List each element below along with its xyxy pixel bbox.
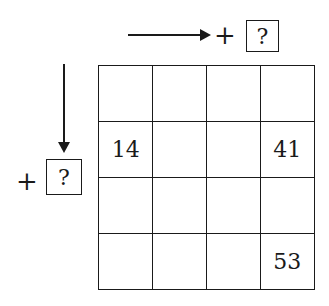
- grid-cell: [206, 66, 260, 122]
- vertical-unknown-value: ?: [58, 165, 70, 190]
- grid-cell: [153, 66, 207, 122]
- grid-cell: [99, 66, 153, 122]
- grid-cell: [260, 66, 314, 122]
- vertical-arrow-shaft: [63, 64, 65, 146]
- grid-cell: [153, 122, 207, 178]
- down-arrow-icon: [58, 142, 70, 153]
- grid-cell: [260, 178, 314, 234]
- number-grid: 14 41 53: [98, 65, 315, 290]
- grid-row: 53: [99, 234, 315, 290]
- right-arrow-icon: [200, 29, 211, 41]
- horizontal-unknown-box: ?: [246, 20, 279, 52]
- horizontal-arrow-shaft: [128, 34, 204, 36]
- grid-cell: 14: [99, 122, 153, 178]
- grid-cell: [206, 122, 260, 178]
- grid-cell: [206, 178, 260, 234]
- grid-cell: [99, 178, 153, 234]
- grid-row: 14 41: [99, 122, 315, 178]
- grid-cell: [99, 234, 153, 290]
- vertical-unknown-box: ?: [46, 159, 82, 195]
- grid-cell: 41: [260, 122, 314, 178]
- grid-cell: [206, 234, 260, 290]
- grid-row: [99, 66, 315, 122]
- grid-cell: [153, 234, 207, 290]
- horizontal-unknown-value: ?: [257, 24, 269, 49]
- grid-row: [99, 178, 315, 234]
- grid-cell: 53: [260, 234, 314, 290]
- vertical-plus-sign: +: [16, 168, 38, 194]
- grid-cell: [153, 178, 207, 234]
- horizontal-plus-sign: +: [214, 22, 236, 48]
